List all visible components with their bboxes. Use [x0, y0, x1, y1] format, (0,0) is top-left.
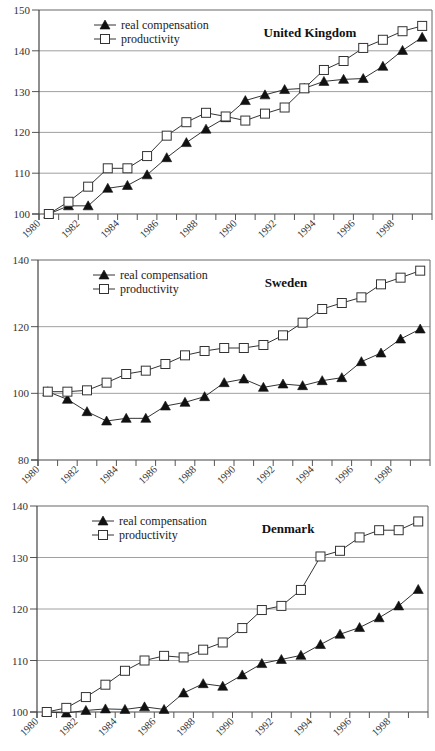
- x-tick-label: 1990: [213, 716, 236, 739]
- square-marker-icon: [316, 552, 325, 561]
- square-marker-icon: [416, 266, 425, 275]
- x-tick-label: 1992: [252, 716, 275, 739]
- y-tick-label: 130: [12, 552, 29, 564]
- triangle-marker-icon: [415, 324, 425, 333]
- square-marker-icon: [257, 606, 266, 615]
- legend-label-real-compensation: real compensation: [121, 18, 209, 32]
- x-tick-label: 1992: [254, 464, 277, 487]
- legend-label-productivity: productivity: [119, 528, 178, 542]
- square-marker-icon: [357, 293, 366, 302]
- square-marker-icon: [359, 43, 368, 52]
- series-line: [48, 329, 420, 421]
- chart-title: Denmark: [262, 521, 315, 536]
- legend: real compensationproductivity: [92, 514, 207, 542]
- y-tick-label: 80: [18, 454, 30, 466]
- triangle-marker-icon: [335, 629, 345, 638]
- x-tick-label: 1996: [331, 716, 354, 739]
- square-marker-icon: [378, 35, 387, 44]
- x-tick-label: 1994: [291, 715, 314, 738]
- square-marker-icon: [260, 109, 269, 118]
- square-marker-icon: [182, 118, 191, 127]
- x-tick-label: 1980: [18, 716, 41, 739]
- y-tick-label: 110: [12, 655, 29, 667]
- triangle-marker-icon: [201, 124, 211, 133]
- square-marker-icon: [241, 116, 250, 125]
- square-marker-icon: [336, 546, 345, 555]
- chart-title: Sweden: [265, 275, 308, 290]
- x-tick-label: 1986: [135, 716, 158, 739]
- square-marker-icon: [103, 164, 112, 173]
- legend-square-icon: [100, 285, 109, 294]
- square-marker-icon: [414, 517, 423, 526]
- y-tick-label: 140: [14, 45, 31, 57]
- square-marker-icon: [84, 182, 93, 191]
- square-marker-icon: [319, 65, 328, 74]
- triangle-marker-icon: [374, 613, 384, 622]
- square-marker-icon: [339, 57, 348, 66]
- square-marker-icon: [239, 344, 248, 353]
- chart-united-kingdom: 1001101201301401501980198219841986198819…: [0, 0, 435, 250]
- square-marker-icon: [259, 341, 268, 350]
- square-marker-icon: [277, 601, 286, 610]
- square-marker-icon: [64, 197, 73, 206]
- triangle-marker-icon: [417, 32, 427, 41]
- triangle-marker-icon: [141, 413, 151, 422]
- square-marker-icon: [101, 680, 110, 689]
- chart-sweden: 8010012014019801982198419861988199019921…: [0, 250, 435, 500]
- chart-svg: 1001101201301401501980198219841986198819…: [0, 0, 435, 250]
- series-line: [49, 37, 422, 214]
- series-line: [49, 26, 422, 214]
- square-marker-icon: [83, 386, 92, 395]
- legend-label-productivity: productivity: [121, 32, 180, 46]
- triangle-marker-icon: [181, 138, 191, 147]
- triangle-marker-icon: [122, 180, 132, 189]
- triangle-marker-icon: [121, 413, 131, 422]
- legend-square-icon: [101, 35, 110, 44]
- x-tick-label: 1984: [96, 715, 119, 738]
- x-tick-label: 1988: [174, 716, 197, 739]
- triangle-marker-icon: [396, 334, 406, 343]
- x-tick-label: 1998: [370, 716, 393, 739]
- square-marker-icon: [199, 645, 208, 654]
- square-marker-icon: [280, 103, 289, 112]
- square-marker-icon: [279, 331, 288, 340]
- x-tick-label: 1982: [58, 464, 81, 487]
- square-marker-icon: [200, 347, 209, 356]
- square-marker-icon: [161, 360, 170, 369]
- y-tick-label: 130: [14, 86, 31, 98]
- x-tick-label: 1986: [138, 218, 161, 241]
- triangle-marker-icon: [376, 348, 386, 357]
- triangle-marker-icon: [413, 584, 423, 593]
- square-marker-icon: [337, 299, 346, 308]
- square-marker-icon: [42, 708, 51, 717]
- square-marker-icon: [63, 387, 72, 396]
- triangle-marker-icon: [82, 407, 92, 416]
- series-productivity: [42, 517, 422, 717]
- y-tick-label: 150: [14, 4, 31, 16]
- x-tick-label: 1984: [98, 217, 121, 240]
- x-tick-label: 1988: [176, 464, 199, 487]
- square-marker-icon: [179, 653, 188, 662]
- y-tick-label: 120: [12, 603, 29, 615]
- triangle-marker-icon: [278, 379, 288, 388]
- square-marker-icon: [202, 108, 211, 117]
- legend-label-productivity: productivity: [120, 282, 179, 296]
- chart-svg: 8010012014019801982198419861988199019921…: [0, 250, 435, 500]
- legend-square-icon: [99, 531, 108, 540]
- triangle-marker-icon: [337, 373, 347, 382]
- x-tick-label: 1996: [334, 218, 357, 241]
- triangle-marker-icon: [296, 650, 306, 659]
- square-marker-icon: [318, 305, 327, 314]
- square-marker-icon: [375, 526, 384, 535]
- triangle-marker-icon: [394, 601, 404, 610]
- y-tick-label: 120: [13, 321, 30, 333]
- x-tick-label: 1986: [136, 464, 159, 487]
- legend: real compensationproductivity: [94, 18, 209, 46]
- square-marker-icon: [298, 318, 307, 327]
- square-marker-icon: [43, 387, 52, 396]
- series-line: [47, 589, 418, 713]
- x-tick-label: 1994: [295, 217, 318, 240]
- triangle-marker-icon: [140, 702, 150, 711]
- square-marker-icon: [377, 280, 386, 289]
- triangle-marker-icon: [355, 623, 365, 632]
